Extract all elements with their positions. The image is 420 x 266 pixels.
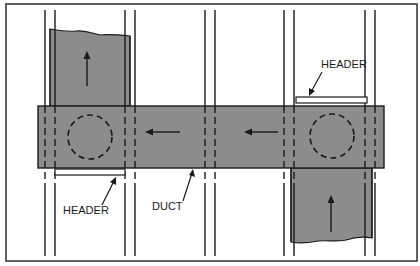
header-bottom — [55, 169, 125, 175]
header-top — [296, 97, 367, 103]
riser-duct-top — [50, 29, 130, 106]
label-header-bottom: HEADER — [63, 204, 109, 216]
duct-framing-diagram: HEADER HEADER DUCT — [0, 0, 420, 266]
label-duct: DUCT — [152, 200, 183, 212]
label-header-top: HEADER — [321, 58, 367, 70]
